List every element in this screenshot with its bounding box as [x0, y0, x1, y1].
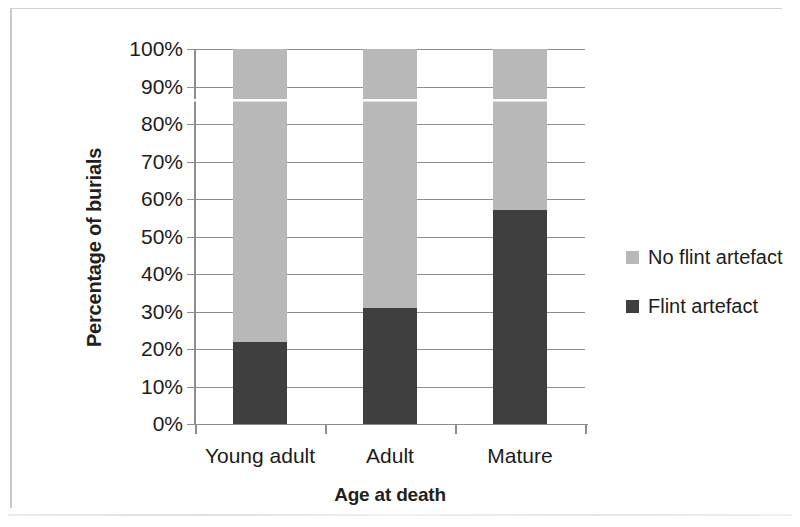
y-axis-tick [187, 162, 195, 163]
legend-swatch-icon [626, 300, 639, 313]
y-axis-tick-label: 20% [141, 337, 183, 361]
bar-segment-flint-artefact[interactable] [363, 308, 417, 424]
x-axis-category-label: Adult [366, 444, 414, 468]
y-axis-tick-label: 50% [141, 225, 183, 249]
bar-segment-flint-artefact[interactable] [233, 342, 287, 425]
x-axis-tick [195, 424, 197, 434]
bar-segment-no-flint-artefact[interactable] [493, 49, 547, 210]
x-axis-category-label: Mature [487, 444, 552, 468]
x-axis-tick [325, 424, 327, 434]
legend-swatch-icon [626, 251, 639, 264]
chart-legend: No flint artefactFlint artefact [626, 246, 783, 318]
scan-bottom-edge [8, 514, 792, 516]
x-axis-tick [585, 424, 587, 434]
bar-segment-no-flint-artefact[interactable] [363, 49, 417, 308]
y-axis-tick-label: 100% [129, 37, 183, 61]
bar-group[interactable] [233, 49, 287, 424]
legend-label: No flint artefact [648, 246, 783, 269]
plot-area: 0%10%20%30%40%50%60%70%80%90%100% Young … [195, 49, 585, 424]
y-axis-tick [187, 387, 195, 388]
y-axis-tick-label: 0% [153, 412, 183, 436]
y-axis-tick [187, 424, 195, 425]
y-axis-tick [187, 199, 195, 200]
gridline [195, 424, 585, 425]
bar-group[interactable] [363, 49, 417, 424]
x-axis-category-label: Young adult [205, 444, 315, 468]
bar-group[interactable] [493, 49, 547, 424]
y-axis-tick-label: 80% [141, 112, 183, 136]
y-axis-tick-label: 70% [141, 150, 183, 174]
y-axis-tick-label: 10% [141, 375, 183, 399]
x-axis-title: Age at death [195, 484, 585, 506]
y-axis-tick [187, 237, 195, 238]
y-axis-tick-label: 40% [141, 262, 183, 286]
y-axis-title: Percentage of burials [83, 108, 106, 388]
y-axis-tick [187, 274, 195, 275]
stacked-bar-chart: Percentage of burials 0%10%20%30%40%50%6… [40, 16, 760, 511]
legend-item[interactable]: Flint artefact [626, 295, 783, 318]
y-axis-tick-label: 30% [141, 300, 183, 324]
y-axis-tick [187, 124, 195, 125]
legend-item[interactable]: No flint artefact [626, 246, 783, 269]
y-axis-tick [187, 49, 195, 50]
y-axis-tick [187, 87, 195, 88]
bar-segment-no-flint-artefact[interactable] [233, 49, 287, 342]
y-axis-tick-label: 90% [141, 75, 183, 99]
y-axis-tick [187, 349, 195, 350]
y-axis-tick [187, 312, 195, 313]
bar-segment-flint-artefact[interactable] [493, 210, 547, 424]
y-axis-tick-label: 60% [141, 187, 183, 211]
x-axis-tick [455, 424, 457, 434]
legend-label: Flint artefact [648, 295, 758, 318]
